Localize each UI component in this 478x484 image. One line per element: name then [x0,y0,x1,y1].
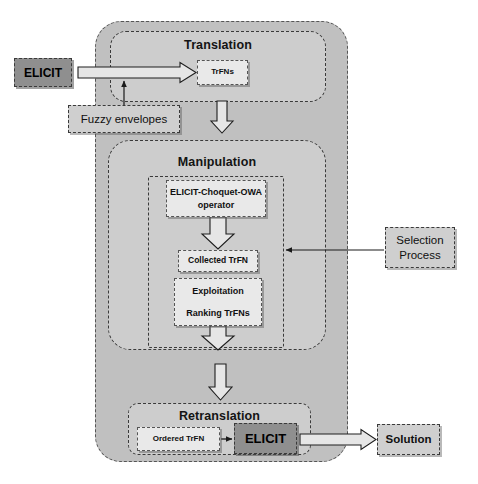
elicit-input-label: ELICIT [24,66,62,80]
trfns-node[interactable]: TrFNs [197,60,248,85]
elicit-output-node[interactable]: ELICIT [234,423,297,454]
selection-process-label-line2: Process [399,249,441,261]
collected-trfn-node[interactable]: Collected TrFN [178,250,258,272]
manipulation-phase-title: Manipulation [108,155,326,169]
collected-trfn-label: Collected TrFN [188,255,248,266]
retranslation-phase-title: Retranslation [128,409,311,423]
elicit-input-node[interactable]: ELICIT [14,58,72,87]
ordered-trfn-node[interactable]: Ordered TrFN [137,427,220,451]
translation-phase-title: Translation [110,38,326,52]
solution-label: Solution [386,432,432,446]
selection-process-label-box[interactable]: Selection Process [385,227,455,268]
owa-operator-label-line2: operator [198,200,235,210]
fuzzy-envelopes-label: Fuzzy envelopes [81,112,167,126]
elicit-choquet-owa-operator-node[interactable]: ELICIT-Choquet-OWA operator [166,180,266,217]
ordered-trfn-label: Ordered TrFN [153,434,205,445]
exploitation-label: Exploitation [192,285,244,297]
solution-label-box[interactable]: Solution [377,424,440,455]
exploitation-ranking-node[interactable]: Exploitation Ranking TrFNs [174,278,262,326]
trfns-label: TrFNs [211,67,234,78]
selection-process-label-line1: Selection [396,234,443,246]
fuzzy-envelopes-label-box[interactable]: Fuzzy envelopes [68,105,180,133]
diagram-canvas: Translation Manipulation Retranslation [0,0,478,484]
owa-operator-label-line1: ELICIT-Choquet-OWA [170,187,262,197]
ranking-trfns-label: Ranking TrFNs [186,307,250,319]
elicit-output-label: ELICIT [245,431,286,446]
